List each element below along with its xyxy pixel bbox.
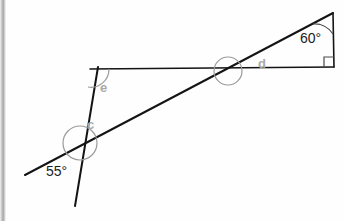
right-angle-square-icon xyxy=(324,57,334,67)
angle-label-60-degrees: 60° xyxy=(300,31,321,45)
steep-line xyxy=(75,67,98,206)
circle-d xyxy=(214,57,242,85)
angle-label-55-degrees: 55° xyxy=(46,164,67,178)
diagram-canvas: e c d 55° 60° xyxy=(0,0,343,221)
angle-label-c: c xyxy=(87,118,94,131)
angle-label-d: d xyxy=(258,57,266,70)
right-vertical-line xyxy=(333,13,334,67)
horizontal-line xyxy=(90,67,334,69)
transversal-line xyxy=(25,13,333,175)
geometry-figure xyxy=(0,0,343,221)
angle-label-e: e xyxy=(100,81,107,94)
